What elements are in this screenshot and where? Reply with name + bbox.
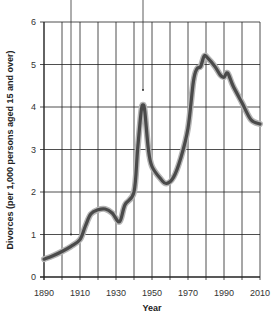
divorce-rate-chart: 0123456 1890191019301950197019902010 Yea… — [0, 0, 272, 313]
y-axis-label: Divorces (per 1,000 persons aged 15 and … — [5, 50, 15, 249]
y-tick-label: 1 — [31, 230, 36, 240]
x-tick-label: 1890 — [34, 288, 54, 298]
y-tick-label: 4 — [31, 102, 36, 112]
annotation-pointer-dot — [142, 89, 144, 91]
y-tick-label: 2 — [31, 187, 36, 197]
x-tick-label: 1970 — [178, 288, 198, 298]
x-tick-label: 1950 — [142, 288, 162, 298]
x-tick-label: 1990 — [214, 288, 234, 298]
x-axis-label: Year — [142, 303, 162, 313]
y-tick-label: 5 — [31, 60, 36, 70]
x-tick-label: 1930 — [106, 288, 126, 298]
y-axis-ticks: 0123456 — [31, 17, 36, 282]
y-tick-label: 6 — [31, 17, 36, 27]
y-tick-label: 0 — [31, 272, 36, 282]
x-axis-ticks: 1890191019301950197019902010 — [34, 288, 270, 298]
y-tick-label: 3 — [31, 145, 36, 155]
x-tick-label: 2010 — [250, 288, 270, 298]
annotation-pointer-dot — [70, 234, 72, 236]
x-tick-label: 1910 — [70, 288, 90, 298]
